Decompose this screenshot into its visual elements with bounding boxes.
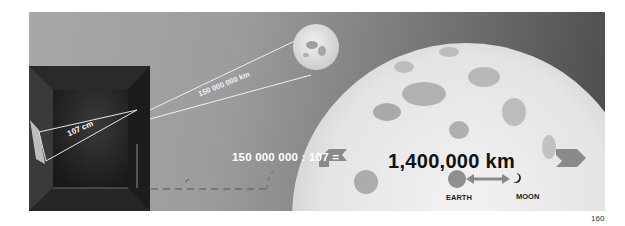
diagram-graphics bbox=[29, 12, 605, 211]
moon-label: MOON bbox=[516, 192, 539, 201]
page-number: 160 bbox=[591, 214, 604, 223]
box-perspective bbox=[29, 66, 150, 211]
image-cone bbox=[39, 110, 137, 161]
large-sun bbox=[292, 43, 605, 211]
illustration-frame: 107 cm 150 000 000 km 150 000 000 : 107 … bbox=[29, 12, 605, 211]
small-sun bbox=[293, 24, 339, 70]
sun-diameter-label: 1,400,000 km bbox=[388, 150, 515, 173]
earth-label: EARTH bbox=[446, 193, 472, 202]
ratio-expression: 150 000 000 : 107 = bbox=[232, 151, 339, 163]
